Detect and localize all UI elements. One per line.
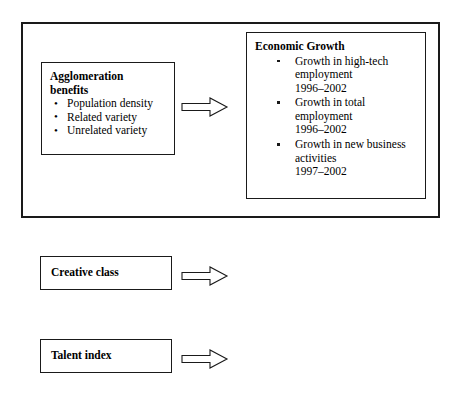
creative-class-title: Creative class [41,257,171,280]
growth-item-1-line2: employment [295,110,419,124]
box-agglomeration-benefits: Agglomeration benefits Population densit… [41,62,175,155]
agglomeration-item-1: Related variety [67,111,137,123]
list-item: Growth in high-tech employment 1996–2002 [255,55,419,96]
talent-index-title: Talent index [41,340,171,363]
economic-growth-bullet-list: Growth in high-tech employment 1996–2002… [255,55,419,179]
agglomeration-item-2: Unrelated variety [67,124,147,136]
agglomeration-title-line1: Agglomeration [50,70,123,82]
list-item: Growth in new business activities 1997–2… [255,138,419,179]
arrow-right-icon [181,265,229,287]
list-item: Growth in total employment 1996–2002 [255,96,419,137]
box-creative-class: Creative class [40,256,172,290]
agglomeration-title: Agglomeration benefits [50,70,166,97]
growth-item-2-line3: 1997–2002 [295,165,419,179]
box-talent-index: Talent index [40,339,172,373]
arrow-right-icon [181,96,229,118]
list-item: Unrelated variety [50,124,166,138]
agglomeration-bullet-list: Population density Related variety Unrel… [50,97,166,138]
growth-item-1-line3: 1996–2002 [295,123,419,137]
growth-item-0-line2: employment [295,68,419,82]
list-item: Related variety [50,111,166,125]
growth-item-2-line1: Growth in new business [295,138,419,152]
growth-item-2-line2: activities [295,152,419,166]
growth-item-0-line1: Growth in high-tech [295,55,419,69]
agglomeration-title-line2: benefits [50,84,88,96]
agglomeration-item-0: Population density [67,97,153,109]
growth-item-0-line3: 1996–2002 [295,82,419,96]
growth-item-1-line1: Growth in total [295,96,419,110]
arrow-right-icon [181,348,229,370]
diagram-canvas: Agglomeration benefits Population densit… [0,0,463,393]
list-item: Population density [50,97,166,111]
box-economic-growth: Economic Growth Growth in high-tech empl… [246,32,426,199]
economic-growth-title: Economic Growth [255,40,419,54]
